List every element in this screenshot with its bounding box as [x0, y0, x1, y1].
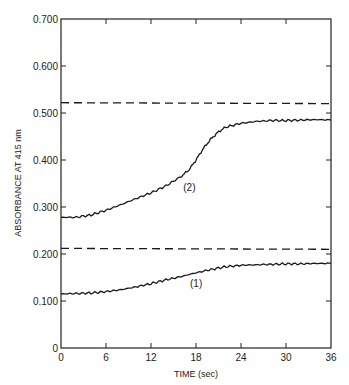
absorbance-chart: 061218243036 00.1000.2000.3000.4000.5000… — [0, 0, 349, 385]
x-axis-label: TIME (sec) — [174, 369, 218, 379]
y-tick-label: 0.600 — [33, 61, 58, 72]
y-tick-label: 0.100 — [33, 296, 58, 307]
plot-frame — [61, 19, 331, 348]
y-tick-label: 0.700 — [33, 14, 58, 25]
x-axis-ticks: 061218243036 — [58, 19, 337, 363]
y-tick-label: 0.200 — [33, 249, 58, 260]
x-tick-label: 18 — [190, 352, 202, 363]
dashed-reference-line — [61, 103, 331, 104]
x-tick-label: 6 — [103, 352, 109, 363]
y-tick-label: 0 — [52, 343, 58, 354]
curve-label: (1) — [190, 278, 202, 289]
curve-line — [61, 119, 331, 218]
x-tick-label: 24 — [235, 352, 247, 363]
x-tick-label: 12 — [145, 352, 157, 363]
x-tick-label: 30 — [280, 352, 292, 363]
y-tick-label: 0.500 — [33, 108, 58, 119]
dashed-reference-line — [61, 248, 331, 249]
data-series: (2)(1) — [61, 103, 331, 295]
y-tick-label: 0.300 — [33, 202, 58, 213]
y-tick-label: 0.400 — [33, 155, 58, 166]
curve-label: (2) — [183, 182, 195, 193]
y-axis-label: ABSORBANCE AT 415 nm — [13, 129, 23, 237]
x-tick-label: 36 — [325, 352, 337, 363]
y-axis-ticks: 00.1000.2000.3000.4000.5000.6000.700 — [33, 14, 331, 354]
x-tick-label: 0 — [58, 352, 64, 363]
